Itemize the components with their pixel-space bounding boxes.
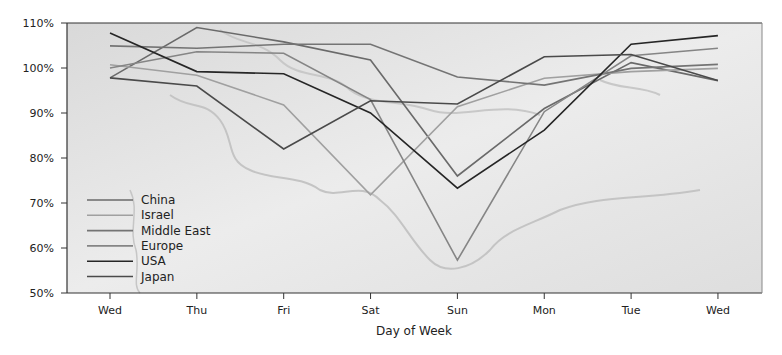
legend-label: Israel [141,208,174,222]
x-tick-label: Wed [98,304,122,317]
y-tick-label: 60% [30,242,54,255]
legend-label: Japan [140,270,174,284]
x-tick-label: Sun [447,304,468,317]
y-tick-label: 110% [23,17,54,30]
x-axis-title: Day of Week [376,324,452,338]
line-chart: 50%60%70%80%90%100%110% WedThuFriSatSunM… [0,0,782,355]
x-tick-label: Wed [706,304,730,317]
legend-label: China [141,193,175,207]
y-tick-label: 70% [30,197,54,210]
y-tick-label: 50% [30,287,54,300]
y-axis-ticks: 50%60%70%80%90%100%110% [23,17,67,300]
x-tick-label: Sat [362,304,381,317]
legend-label: Middle East [141,224,211,238]
y-tick-label: 90% [30,107,54,120]
legend-label: Europe [141,239,183,253]
y-tick-label: 80% [30,152,54,165]
x-tick-label: Thu [186,304,208,317]
x-tick-label: Fri [277,304,290,317]
legend-label: USA [141,254,167,268]
x-tick-label: Mon [533,304,556,317]
x-axis-ticks: WedThuFriSatSunMonTueWed [98,293,730,317]
y-tick-label: 100% [23,62,54,75]
x-tick-label: Tue [621,304,641,317]
